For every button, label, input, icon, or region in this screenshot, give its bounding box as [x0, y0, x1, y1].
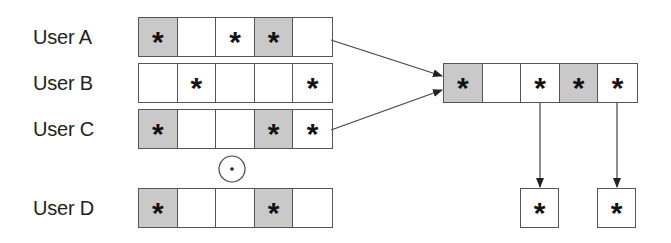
circled-dot-operator-icon	[219, 156, 245, 182]
result-cell-5: *	[598, 64, 637, 102]
user-c-cell-5: *	[293, 110, 332, 148]
user-b-label: User B	[33, 63, 93, 103]
user-b-cell-2: *	[178, 64, 217, 102]
user-b-cell-5: *	[293, 64, 332, 102]
user-d-cell-2	[178, 189, 217, 227]
user-a-cell-5	[293, 18, 332, 56]
user-b-cell-3	[216, 64, 255, 102]
user-d-vector: * *	[138, 188, 333, 228]
arrow-user-c-to-result	[331, 90, 442, 130]
user-a-label: User A	[33, 17, 92, 57]
output-box-2: *	[597, 188, 636, 228]
result-cell-3: *	[521, 64, 560, 102]
result-cell-2	[483, 64, 522, 102]
user-a-cell-2	[178, 18, 217, 56]
user-c-cell-4: *	[255, 110, 294, 148]
user-b-cell-1	[139, 64, 178, 102]
user-a-cell-1: *	[139, 18, 178, 56]
user-d-label: User D	[33, 188, 94, 228]
user-c-vector: * * *	[138, 109, 333, 149]
user-d-cell-3	[216, 189, 255, 227]
result-cell-4: *	[560, 64, 599, 102]
user-b-cell-4	[255, 64, 294, 102]
arrow-user-a-to-result	[331, 40, 442, 76]
result-vector: * * * *	[443, 63, 638, 103]
user-c-cell-1: *	[139, 110, 178, 148]
user-c-cell-3	[216, 110, 255, 148]
user-d-cell-5	[293, 189, 332, 227]
result-cell-1: *	[444, 64, 483, 102]
user-d-cell-4: *	[255, 189, 294, 227]
user-d-cell-1: *	[139, 189, 178, 227]
user-a-cell-3: *	[216, 18, 255, 56]
user-a-vector: * * *	[138, 17, 333, 57]
output-box-1: *	[520, 188, 559, 228]
user-a-cell-4: *	[255, 18, 294, 56]
user-c-cell-2	[178, 110, 217, 148]
user-c-label: User C	[33, 109, 94, 149]
user-b-vector: * *	[138, 63, 333, 103]
connector-lines	[0, 0, 671, 243]
